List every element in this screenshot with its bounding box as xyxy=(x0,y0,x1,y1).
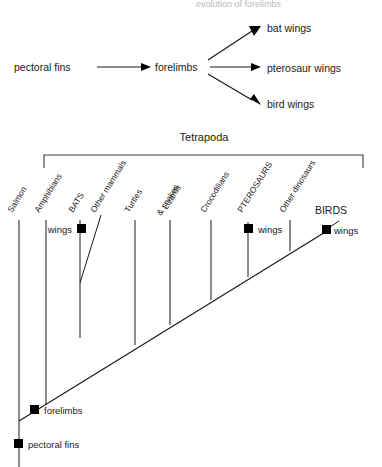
taxon-label-turtles: Turtles xyxy=(122,187,144,214)
character-square xyxy=(244,224,253,233)
group-label-tetrapoda: Tetrapoda xyxy=(180,131,230,143)
cut-off-caption: evolution of forelimbs xyxy=(196,0,282,9)
character-square xyxy=(30,405,39,414)
taxa-labels: Salmon Amphibians BATS Other mammals Tur… xyxy=(5,158,347,217)
taxon-label-bats: BATS xyxy=(66,190,86,214)
character-label-forelimbs: forelimbs xyxy=(44,405,83,416)
character-label-pectoral-fins: pectoral fins xyxy=(28,439,79,450)
arrow-forelimbs-to-pterosaur-wings xyxy=(210,63,261,71)
flow-diagram: pectoral fins forelimbs bat wings pteros… xyxy=(14,22,341,110)
cladogram-figure: evolution of forelimbs pectoral fins for… xyxy=(0,0,382,467)
character-mark-forelimbs: forelimbs xyxy=(30,405,83,416)
character-mark-pectoral-fins: pectoral fins xyxy=(14,439,79,450)
character-label-birds-wings: wings xyxy=(333,225,359,236)
taxon-label-pterosaurs: PTEROSAURS xyxy=(235,159,274,214)
taxon-label-crocodilians: Crocodilians xyxy=(198,170,231,214)
taxon-label-other-dinosaurs: Other dinosaurs xyxy=(277,158,317,214)
character-mark-birds-wings: wings xyxy=(322,225,359,236)
arrow-pectoral-fins-to-forelimbs xyxy=(97,63,151,71)
flow-node-pectoral-fins: pectoral fins xyxy=(14,61,71,73)
cladogram: Tetrapoda Salmon Amphibians BATS Other m… xyxy=(5,131,363,467)
flow-node-pterosaur-wings: pterosaur wings xyxy=(267,62,341,74)
character-square xyxy=(77,224,86,233)
figure-root: evolution of forelimbs pectoral fins for… xyxy=(0,0,382,467)
taxon-label-amphibians: Amphibians xyxy=(32,172,64,214)
arrow-forelimbs-to-bat-wings xyxy=(208,26,261,60)
backbone-diagonal xyxy=(19,231,327,421)
character-square xyxy=(14,439,23,448)
character-square xyxy=(322,225,331,234)
taxon-label-other-mammals: Other mammals xyxy=(88,158,128,214)
flow-node-bird-wings: bird wings xyxy=(267,98,314,110)
character-label-pterosaurs-wings: wings xyxy=(257,224,283,235)
taxon-label-snakes: & snakes xyxy=(154,183,181,218)
arrow-forelimbs-to-bird-wings xyxy=(208,74,261,105)
flow-node-bat-wings: bat wings xyxy=(267,22,311,34)
taxon-label-birds: BIRDS xyxy=(315,204,347,216)
character-mark-pterosaurs-wings: wings xyxy=(244,224,283,235)
taxon-label-salmon: Salmon xyxy=(5,184,29,214)
flow-node-forelimbs: forelimbs xyxy=(155,61,198,73)
character-label-bats-wings: wings xyxy=(47,224,73,235)
